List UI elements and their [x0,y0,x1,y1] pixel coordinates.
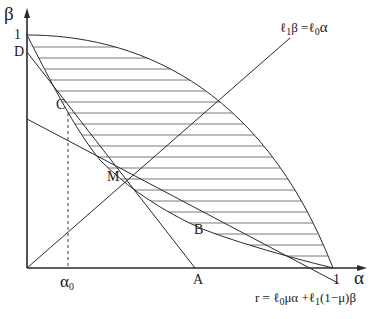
y-axis-label: β [4,4,14,23]
r-equals-ell: r = ℓ [255,290,279,305]
ray-equation-label: ℓ1β =ℓ0α [280,20,328,37]
alpha-symbol: α [320,19,328,35]
one-minus-mu-beta: (1−μ)β [320,290,356,305]
line-r-equation-label: r = ℓ0μα +ℓ1(1−μ)β [255,291,356,307]
point-label-a: A [193,273,203,287]
beta-equals: β = [291,20,308,35]
point-label-m: M [107,170,119,184]
alpha0-subscript: 0 [69,281,74,292]
y-axis-tick-one: 1 [14,28,21,42]
y-axis-arrow-icon [24,8,30,18]
x-axis-label: α [354,268,364,287]
mu-alpha-plus-ell: μα +ℓ [284,290,315,305]
hatched-region [27,47,340,256]
x-axis-tick-one: 1 [333,273,340,287]
outer-frontier-curve [27,35,333,268]
line-d-a [27,52,195,268]
inner-frontier-curve [27,35,333,268]
point-label-d: D [14,45,24,59]
diagram-canvas [0,0,377,319]
alpha0-symbol: α [60,272,69,291]
x-axis-tick-alpha0: α0 [60,273,74,292]
point-label-c: C [56,98,65,112]
point-label-b: B [194,223,203,237]
ray-equal-ratio [27,38,290,268]
